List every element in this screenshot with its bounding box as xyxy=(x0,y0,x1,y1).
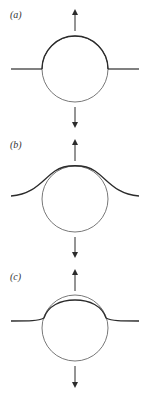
interface-cap xyxy=(42,36,108,69)
particle-circle xyxy=(42,295,108,361)
panel-c: (c) xyxy=(10,271,139,385)
interface-detached xyxy=(11,300,139,321)
panel-b: (b) xyxy=(10,139,139,255)
interface-bell xyxy=(11,166,139,196)
particle-circle xyxy=(42,166,108,232)
interface-diagram: (a) (b) (c) xyxy=(0,0,151,393)
panel-b-label: (b) xyxy=(10,139,22,151)
panel-a-label: (a) xyxy=(10,9,22,21)
panel-a: (a) xyxy=(10,9,139,125)
panel-c-label: (c) xyxy=(10,271,22,283)
